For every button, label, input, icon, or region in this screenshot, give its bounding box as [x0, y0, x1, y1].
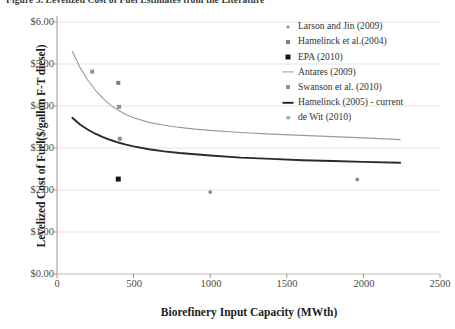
legend-label: de Wit (2010)	[298, 111, 351, 122]
data-point-2	[116, 177, 121, 182]
legend-label: Swanson et al. (2010)	[298, 81, 382, 92]
data-point-4	[118, 137, 122, 141]
data-point-1	[116, 81, 120, 85]
legend-item[interactable]: de Wit (2010)	[281, 110, 447, 125]
legend-marker-icon	[281, 95, 295, 110]
legend-label: Antares (2009)	[298, 66, 356, 77]
chart-legend: Larson and Jin (2009)Hamelinck et al.(20…	[281, 19, 447, 125]
legend-item[interactable]: Larson and Jin (2009)	[281, 19, 447, 34]
legend-item[interactable]: Hamelinck (2005) - current	[281, 95, 447, 110]
legend-marker-icon	[281, 80, 295, 95]
legend-item[interactable]: Hamelinck et al.(2004)	[281, 34, 447, 49]
legend-marker-icon	[281, 34, 295, 49]
legend-swatch	[287, 25, 290, 28]
data-point-0	[355, 178, 359, 182]
legend-item[interactable]: EPA (2010)	[281, 49, 447, 64]
x-axis-ticks	[57, 274, 440, 278]
legend-label: EPA (2010)	[298, 51, 343, 62]
legend-marker-icon	[281, 65, 295, 80]
legend-label: Hamelinck (2005) - current	[298, 96, 403, 107]
data-point-0	[208, 190, 212, 194]
data-point-4	[117, 105, 121, 109]
legend-item[interactable]: Antares (2009)	[281, 65, 447, 80]
legend-label: Larson and Jin (2009)	[298, 20, 382, 31]
legend-swatch	[283, 72, 294, 73]
legend-swatch	[286, 54, 291, 59]
legend-swatch	[283, 101, 294, 103]
legend-marker-icon	[281, 49, 295, 64]
legend-marker-icon	[281, 110, 295, 125]
data-point-4	[90, 70, 94, 74]
legend-swatch	[286, 40, 290, 44]
legend-marker-icon	[281, 19, 295, 34]
legend-swatch	[286, 116, 290, 120]
legend-item[interactable]: Swanson et al. (2010)	[281, 80, 447, 95]
legend-swatch	[286, 85, 290, 89]
legend-label: Hamelinck et al.(2004)	[298, 35, 387, 46]
y-axis-ticks	[53, 22, 57, 274]
